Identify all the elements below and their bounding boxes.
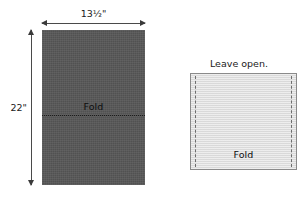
fold-label-folded-piece: Fold (190, 149, 297, 160)
height-dimension-label: 22" (2, 102, 27, 113)
height-dimension-line (31, 30, 32, 185)
leave-open-label: Leave open. (184, 58, 294, 70)
cut-piece-panel: 13½" 22" Fold (0, 0, 160, 220)
sewing-diagram-figure: 13½" 22" Fold Leave open. Fold (0, 0, 306, 220)
width-dimension-line (42, 23, 145, 24)
fold-label-cut-piece: Fold (42, 101, 145, 112)
folded-piece-panel: Leave open. Fold (160, 0, 306, 220)
width-dimension-label: 13½" (42, 8, 145, 19)
fold-line-cut-piece (42, 115, 145, 116)
